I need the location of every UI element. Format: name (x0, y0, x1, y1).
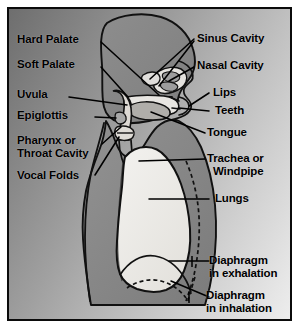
leader-lips (189, 93, 209, 106)
label-sinus-cavity: Sinus Cavity (197, 32, 264, 46)
label-vocal-folds: Vocal Folds (17, 169, 79, 183)
label-soft-palate: Soft Palate (17, 58, 75, 72)
label-diaphragm-inhalation-line2: in inhalation (206, 302, 272, 316)
anatomy-figure: Hard Palate Soft Palate Uvula Epiglottis… (0, 0, 299, 328)
label-hard-palate: Hard Palate (17, 33, 79, 47)
label-trachea-line2: Windpipe (213, 165, 263, 179)
label-pharynx-line1: Pharynx or (17, 134, 76, 148)
label-diaphragm-exhalation-line1: Diaphragm (209, 254, 268, 268)
label-lungs: Lungs (215, 192, 249, 206)
label-tongue: Tongue (207, 126, 247, 140)
label-nasal-cavity: Nasal Cavity (197, 59, 264, 73)
leader-teeth (179, 108, 209, 111)
label-trachea-line1: Trachea or (207, 152, 264, 166)
label-uvula: Uvula (17, 88, 48, 102)
label-epiglottis: Epiglottis (17, 109, 68, 123)
label-diaphragm-inhalation-line1: Diaphragm (206, 289, 265, 303)
leader-epiglottis (95, 117, 116, 118)
label-diaphragm-exhalation-line2: in exhalation (209, 267, 277, 281)
label-lips: Lips (213, 86, 236, 100)
label-pharynx-line2: Throat Cavity (17, 147, 89, 161)
label-teeth: Teeth (215, 104, 244, 118)
figure-frame: Hard Palate Soft Palate Uvula Epiglottis… (7, 7, 292, 321)
